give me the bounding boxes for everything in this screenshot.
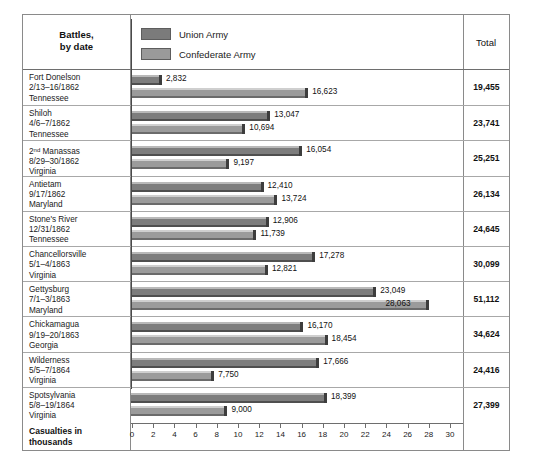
bar-cap bbox=[261, 182, 264, 192]
row-total-value: 23,741 bbox=[464, 118, 509, 128]
table-row: Fort Donelson2/13–16/1862Tennessee2,8321… bbox=[23, 70, 509, 105]
bar-value-label: 2,832 bbox=[166, 74, 187, 83]
bar-bot-sh bbox=[131, 260, 315, 262]
x-axis-tick bbox=[386, 423, 387, 428]
x-axis-tick-label: 0 bbox=[130, 430, 134, 439]
x-axis-tick-label: 14 bbox=[276, 430, 285, 439]
header-battles-line2: by date bbox=[60, 41, 93, 52]
bar-bot-sh bbox=[131, 308, 429, 310]
bar-bot-sh bbox=[131, 238, 256, 240]
bar-top-hi bbox=[131, 335, 325, 337]
row-total-value: 25,251 bbox=[464, 153, 509, 163]
table-row: Wilderness5/5–7/1864Virginia17,6667,7502… bbox=[23, 352, 509, 387]
bar-bot-sh bbox=[131, 343, 328, 345]
x-axis-tick-label: 16 bbox=[297, 430, 306, 439]
x-axis-tick bbox=[323, 423, 324, 428]
bar-rect bbox=[131, 124, 245, 134]
row-label-battle: Spotsylvania5/8–19/1864Virginia bbox=[29, 391, 128, 422]
bar-value-label: 9,000 bbox=[231, 405, 252, 414]
x-axis-tick-label: 28 bbox=[424, 430, 433, 439]
row-total-value: 34,624 bbox=[464, 329, 509, 339]
battle-location: Maryland bbox=[29, 306, 63, 315]
bar-value-label: 12,821 bbox=[272, 264, 297, 273]
battle-date: 5/5–7/1864 bbox=[29, 366, 70, 375]
bar-rect bbox=[131, 406, 227, 416]
bar-rect bbox=[131, 252, 315, 262]
bar-cap bbox=[300, 322, 303, 332]
x-axis-caption-line2: thousands bbox=[29, 437, 72, 447]
chart-rows: Fort Donelson2/13–16/1862Tennessee2,8321… bbox=[23, 70, 509, 422]
bar-cap bbox=[299, 146, 302, 156]
bar-value-label: 18,399 bbox=[331, 392, 356, 401]
bar-rect bbox=[131, 146, 302, 156]
x-axis-tick-label: 10 bbox=[234, 430, 243, 439]
table-row: Stone's River12/31/1862Tennessee12,90611… bbox=[23, 211, 509, 246]
bar-value-label: 17,666 bbox=[323, 357, 348, 366]
bar-value-label: 17,278 bbox=[319, 251, 344, 260]
header-battles-line1: Battles, bbox=[59, 29, 93, 40]
row-label-battle: Chancellorsville5/1–4/1863Virginia bbox=[29, 250, 128, 281]
bar-cap bbox=[265, 265, 268, 275]
bar-bot-sh bbox=[131, 167, 229, 169]
battle-name: 2nd Manassas bbox=[29, 147, 80, 156]
bar-cap bbox=[373, 287, 376, 297]
x-axis-tick-label: 30 bbox=[446, 430, 455, 439]
bar-top-hi bbox=[131, 322, 300, 324]
x-axis-line bbox=[131, 423, 463, 424]
bar-value-label: 12,906 bbox=[273, 216, 298, 225]
figure-canvas: Battles, by date Union Army Confederate … bbox=[0, 0, 533, 468]
bar-top-hi bbox=[131, 393, 324, 395]
battle-date: 12/31/1862 bbox=[29, 225, 70, 234]
x-axis-tick-label: 22 bbox=[361, 430, 370, 439]
row-label-battle: 2nd Manassas8/29–30/1862Virginia bbox=[29, 144, 128, 177]
row-total-value: 19,455 bbox=[464, 82, 509, 92]
bar-rect bbox=[131, 195, 277, 205]
bar-cap bbox=[316, 358, 319, 368]
legend-swatch-union-icon bbox=[141, 28, 171, 40]
battle-location: Tennessee bbox=[29, 235, 69, 244]
bar-value-label: 16,170 bbox=[307, 321, 332, 330]
bar-value-label: 13,724 bbox=[281, 194, 306, 203]
battle-name-ordinal-suffix: nd bbox=[34, 146, 41, 152]
battle-name: Gettysburg bbox=[29, 285, 69, 294]
bar-value-label: 12,410 bbox=[268, 181, 293, 190]
header-total: Total bbox=[463, 37, 509, 48]
bar-bot-sh bbox=[131, 414, 227, 416]
battle-date: 2/13–16/1862 bbox=[29, 83, 79, 92]
bar-rect bbox=[131, 358, 319, 368]
bar-cap bbox=[426, 300, 429, 310]
bar-rect bbox=[131, 322, 303, 332]
row-plot-area: 18,3999,000 bbox=[131, 388, 463, 422]
bar-top-hi bbox=[131, 182, 261, 184]
bar-top-hi bbox=[131, 217, 266, 219]
bar-bot-sh bbox=[131, 273, 268, 275]
row-label-battle: Stone's River12/31/1862Tennessee bbox=[29, 215, 128, 246]
battle-location: Georgia bbox=[29, 341, 58, 350]
bar-bot-sh bbox=[131, 83, 162, 85]
row-plot-area: 13,04710,694 bbox=[131, 106, 463, 140]
battle-name: Wilderness bbox=[29, 356, 70, 365]
battle-date: 7/1–3/1863 bbox=[29, 295, 70, 304]
battle-name: Shiloh bbox=[29, 109, 52, 118]
row-plot-area: 16,17018,454 bbox=[131, 317, 463, 351]
x-axis-tick bbox=[259, 423, 260, 428]
bar-rect bbox=[131, 393, 327, 403]
x-axis-tick-label: 24 bbox=[382, 430, 391, 439]
row-plot-area: 16,0549,197 bbox=[131, 141, 463, 175]
bar-top-hi bbox=[131, 111, 267, 113]
row-plot-area: 23,04928,063 bbox=[131, 282, 463, 316]
x-axis-tick-label: 26 bbox=[403, 430, 412, 439]
x-axis-tick bbox=[365, 423, 366, 428]
bar-rect bbox=[131, 182, 264, 192]
battle-location: Maryland bbox=[29, 200, 63, 209]
bar-top-hi bbox=[131, 159, 226, 161]
x-axis-tick bbox=[408, 423, 409, 428]
x-axis-tick bbox=[429, 423, 430, 428]
value-axis-vertical-line bbox=[131, 19, 132, 389]
bar-value-label: 9,197 bbox=[233, 158, 254, 167]
bar-rect bbox=[131, 230, 256, 240]
bar-cap bbox=[211, 371, 214, 381]
bar-cap bbox=[224, 406, 227, 416]
legend-item-union: Union Army bbox=[141, 25, 256, 43]
bar-rect bbox=[131, 287, 376, 297]
